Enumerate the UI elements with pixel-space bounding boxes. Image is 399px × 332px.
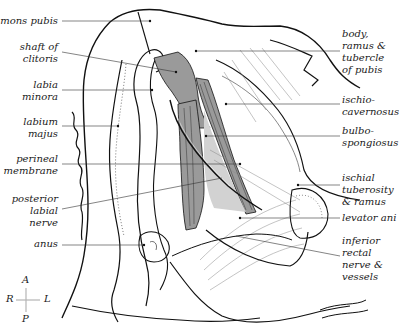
label-shaft-of-clitoris: shaft of clitoris bbox=[20, 41, 58, 65]
label-mons-pubis: mons pubis bbox=[0, 15, 58, 27]
compass-right: R bbox=[6, 293, 14, 304]
compass-left: L bbox=[44, 293, 51, 304]
ischial-tuberosity-shape bbox=[290, 188, 328, 238]
label-posterior-labial-nerve: posterior labial nerve bbox=[12, 193, 58, 229]
levator-ani-fibers bbox=[200, 200, 304, 290]
gluteal-outline bbox=[170, 262, 350, 322]
label-bulbospongiosus: bulbo- spongiosus bbox=[342, 125, 398, 149]
pubic-ramus-detail bbox=[270, 40, 318, 86]
label-body-ramus-tubercle-of-pubis: body, ramus & tubercle of pubis bbox=[342, 28, 386, 76]
orientation-compass-arrows bbox=[16, 288, 40, 312]
thigh-edge bbox=[72, 112, 83, 240]
tuberosity-stipple bbox=[296, 195, 322, 218]
label-labium-majus: labium majus bbox=[23, 116, 58, 140]
label-inferior-rectal-nerve-vessels: inferior rectal nerve & vessels bbox=[342, 235, 383, 283]
bottom-right-lines bbox=[320, 300, 368, 318]
label-levator-ani: levator ani bbox=[342, 212, 396, 224]
label-ischiocavernosus: ischio- cavernosus bbox=[342, 94, 399, 118]
label-labia-minora: labia minora bbox=[22, 79, 58, 103]
anus-outline bbox=[139, 232, 169, 262]
labium-majus-outline bbox=[109, 60, 122, 322]
anus-detail bbox=[150, 241, 157, 250]
compass-anterior: A bbox=[22, 274, 29, 285]
leader-lines-left bbox=[62, 21, 240, 245]
labia-minora-outline bbox=[134, 60, 149, 306]
label-ischial-tuberosity-ramus: ischial tuberosity & ramus bbox=[342, 172, 394, 208]
label-perineal-membrane: perineal membrane bbox=[4, 153, 58, 177]
label-anus: anus bbox=[34, 238, 58, 250]
vestibule-outline bbox=[150, 58, 167, 290]
compass-posterior: P bbox=[22, 313, 29, 324]
levator-ani-outline bbox=[206, 230, 308, 266]
midline bbox=[138, 12, 150, 54]
